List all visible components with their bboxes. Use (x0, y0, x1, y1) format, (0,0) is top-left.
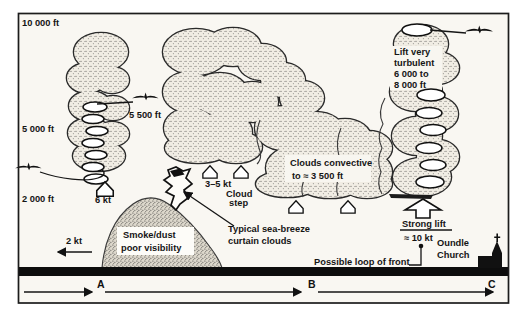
scale-label-c: C (488, 278, 496, 290)
front-loop-label: Possible loop of front (314, 257, 410, 267)
altitude-label-5500: 5 500 ft (129, 110, 161, 120)
wind-label-35kt: 3–5 kt (205, 179, 231, 189)
scale-label-a: A (97, 278, 105, 290)
altitude-label-2000: 2 000 ft (22, 194, 54, 204)
altitude-label-10000: 10 000 ft (22, 18, 59, 28)
scale-label-b: B (308, 278, 316, 290)
curtain-label-line2: curtain clouds (228, 236, 292, 246)
wind-label-6kt: 6 kt (95, 195, 111, 205)
convective-label-line2: to ≈ 3 500 ft (292, 171, 343, 181)
lift-label-line1: Lift very (394, 47, 431, 57)
smoke-label-line1: Smoke/dust (123, 230, 176, 240)
curtain-label-line1: Typical sea-breeze (228, 224, 310, 234)
altitude-label-5000: 5 000 ft (22, 124, 54, 134)
strong-lift-value: ≈ 10 kt (404, 233, 433, 243)
smoke-label-line2: poor visibility (121, 243, 182, 253)
lift-label-line3: 6 000 to (394, 69, 429, 79)
convective-label-line1: Clouds convective (290, 158, 372, 168)
lift-label-line4: 8 000 ft (394, 80, 426, 90)
lift-label-line2: turbulent (394, 58, 434, 68)
cloud-step-line2: step (229, 198, 248, 208)
church-label-line1: Oundle (437, 238, 469, 248)
church-label-line2: Church (437, 250, 470, 260)
sea-breeze-front-diagram: 10 000 ft 5 000 ft 2 000 ft 5 500 ft 6 k… (0, 0, 518, 313)
ground-bar (19, 267, 508, 276)
diagram-canvas: 10 000 ft 5 000 ft 2 000 ft 5 500 ft 6 k… (0, 0, 518, 313)
strong-lift-title: Strong lift (402, 219, 446, 229)
wind-label-2kt: 2 kt (66, 236, 82, 246)
